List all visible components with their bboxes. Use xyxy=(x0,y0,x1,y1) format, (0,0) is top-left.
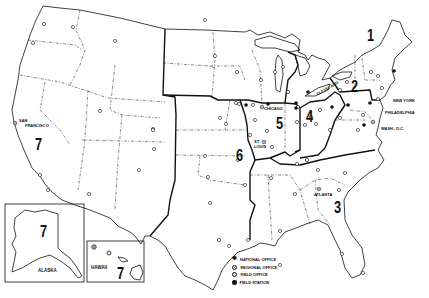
city-label-atlanta: ATLANTA xyxy=(314,193,332,197)
legend-item-field-office: FIELD OFFICE xyxy=(232,271,277,279)
regional-office-icon xyxy=(232,265,237,270)
lake-superior xyxy=(255,36,300,52)
legend-item-field-station: FIELD STATION xyxy=(232,279,277,287)
field-office-icon xyxy=(232,272,237,277)
field-station-icon xyxy=(232,280,237,285)
page-header-text: · · · · · · xyxy=(190,0,218,6)
region-2-label: 2 xyxy=(351,79,358,95)
alaska-label: ALASKA xyxy=(38,268,57,273)
legend-item-national: NATIONAL OFFICE xyxy=(232,256,277,264)
hawaii-big-island xyxy=(130,265,143,280)
legend-label: NATIONAL OFFICE xyxy=(240,256,276,264)
region-4-label: 4 xyxy=(306,109,313,125)
alaska-region-7-label: 7 xyxy=(40,224,47,240)
city-label-chicago: CHICAGO xyxy=(264,107,283,111)
region-3-label: 3 xyxy=(334,200,341,216)
region-1-label: 1 xyxy=(367,28,374,44)
legend-label: REGIONAL OFFICE xyxy=(240,264,277,272)
hawaii-region-7-label: 7 xyxy=(117,266,124,282)
city-label-new-york: NEW YORK xyxy=(393,99,415,103)
map-legend: NATIONAL OFFICE REGIONAL OFFICE FIELD OF… xyxy=(232,256,277,286)
us-outline xyxy=(12,6,412,290)
legend-label: FIELD OFFICE xyxy=(240,271,267,279)
city-label-washington-dc: WASH., D.C. xyxy=(381,127,404,131)
region-6-label: 6 xyxy=(236,148,243,164)
legend-item-regional: REGIONAL OFFICE xyxy=(232,264,277,272)
city-label-philadelphia: PHILADELPHIA xyxy=(385,111,415,115)
hawaii-inset-frame xyxy=(87,241,144,282)
hawaii-maui xyxy=(118,257,128,262)
region-7-label: 7 xyxy=(35,137,42,153)
hawaii-oahu xyxy=(107,251,111,255)
legend-label: FIELD STATION xyxy=(240,279,270,287)
national-office-icon xyxy=(232,257,237,262)
city-label-francisco: FRANCISCO xyxy=(25,124,49,128)
lake-michigan xyxy=(275,55,283,92)
lake-ontario xyxy=(332,72,352,80)
city-label-st-louis-2: LOUIS xyxy=(254,145,266,149)
hawaii-label: HAWAII xyxy=(91,265,107,270)
region-5-label: 5 xyxy=(276,116,283,132)
us-regional-map xyxy=(0,0,429,298)
